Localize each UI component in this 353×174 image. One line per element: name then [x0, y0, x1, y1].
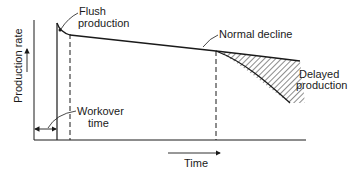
- flush-label: Flush: [79, 5, 106, 17]
- y-axis-label: Production rate: [12, 28, 24, 103]
- workover-label: Workover: [77, 105, 124, 117]
- workover-label-2: time: [88, 117, 109, 129]
- normal-decline-leader-line: [203, 35, 218, 47]
- delayed-label-2: production: [296, 79, 347, 91]
- x-axis-label: Time: [184, 157, 208, 169]
- flush-leader-line: [61, 13, 78, 29]
- normal-decline-label: Normal decline: [219, 28, 292, 40]
- flush-label-2: production: [78, 17, 129, 29]
- workover-leader-line: [48, 111, 76, 128]
- production-decline-diagram: Flush production Normal decline Delayed …: [0, 0, 353, 174]
